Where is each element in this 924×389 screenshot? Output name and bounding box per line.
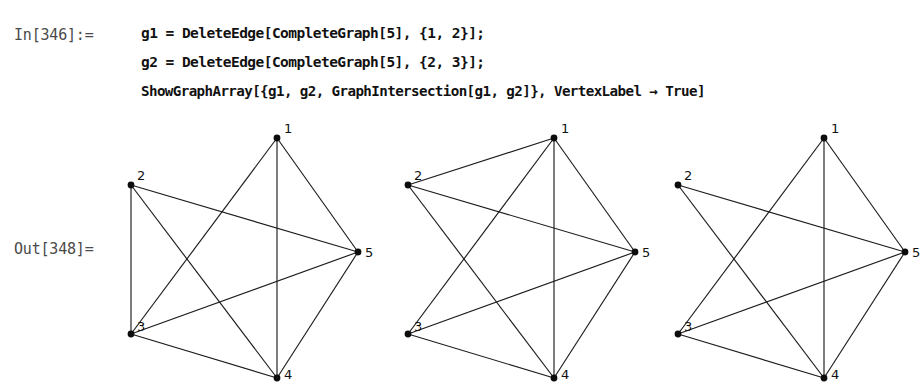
graph-vertex-2 [128,182,135,189]
graph-edge [277,252,358,378]
graph-edge [131,334,277,378]
vertex-label-5: 5 [912,245,920,260]
graph-vertex-1 [821,135,828,142]
vertex-label-4: 4 [284,367,292,382]
graph-vertex-3 [675,331,682,338]
graph-edge [678,252,905,334]
graph-edge [678,185,905,252]
graph-intersection: 12345 [642,112,924,389]
graph-g1: 12345 [95,112,395,389]
code-line-showgrapharray[interactable]: ShowGraphArray[{g1, g2, GraphIntersectio… [141,83,705,99]
vertex-label-3: 3 [684,319,692,334]
graph-edge [131,138,277,334]
graph-edge [678,138,824,334]
graph-edge [678,185,824,378]
graph-vertex-3 [128,331,135,338]
graph-vertex-1 [551,135,558,142]
graph-vertex-5 [355,249,362,256]
code-line-g2[interactable]: g2 = DeleteEdge[CompleteGraph[5], {2, 3}… [141,54,485,70]
graph-edge [408,138,554,185]
graph-vertex-4 [551,375,558,382]
graph-edge [824,138,905,252]
vertex-label-2: 2 [684,168,692,183]
graph-edge [131,252,358,334]
vertex-label-2: 2 [414,168,422,183]
graph-g2: 12345 [372,112,672,389]
graph-vertex-2 [405,182,412,189]
vertex-label-2: 2 [137,168,145,183]
graph-vertex-4 [274,375,281,382]
graph-edge [131,185,358,252]
graph-edge [824,252,905,378]
graph-edge [131,185,277,378]
graph-edge [678,334,824,378]
graph-edge [408,185,554,378]
vertex-label-4: 4 [561,367,569,382]
vertex-label-1: 1 [831,121,839,136]
graph-edge [408,334,554,378]
vertex-label-3: 3 [414,319,422,334]
graph-edge [277,138,358,252]
input-cell-label: In[346]:= [14,26,93,44]
graph-vertex-2 [675,182,682,189]
vertex-label-1: 1 [284,121,292,136]
graph-edge [408,252,635,334]
vertex-label-3: 3 [137,319,145,334]
graph-edge [554,252,635,378]
vertex-label-4: 4 [831,367,839,382]
graph-vertex-3 [405,331,412,338]
graph-edge [408,185,635,252]
graph-vertex-1 [274,135,281,142]
vertex-label-1: 1 [561,121,569,136]
graph-edge [408,138,554,334]
code-line-g1[interactable]: g1 = DeleteEdge[CompleteGraph[5], {1, 2}… [141,25,485,41]
graph-edge [554,138,635,252]
graph-vertex-5 [632,249,639,256]
graph-vertex-4 [821,375,828,382]
graph-vertex-5 [902,249,909,256]
graph-array-output: 12345 12345 12345 [0,112,918,389]
